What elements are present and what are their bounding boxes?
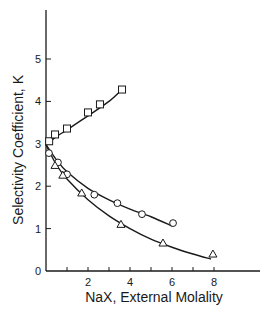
x-tick-label: 6 bbox=[169, 276, 175, 288]
square-marker bbox=[64, 125, 71, 132]
chart: 2468 012345 NaX, External Molality Selec… bbox=[0, 0, 272, 319]
circle-marker bbox=[170, 220, 177, 227]
triangle-marker bbox=[209, 250, 217, 257]
square-marker bbox=[119, 86, 126, 93]
triangle-marker bbox=[78, 189, 86, 196]
y-tick-label: 5 bbox=[35, 53, 41, 65]
y-axis-label: Selectivity Coefficient, K bbox=[10, 74, 26, 225]
x-tick-label: 2 bbox=[85, 276, 91, 288]
x-axis-label: NaX, External Molality bbox=[85, 289, 223, 305]
triangles-fit-curve bbox=[46, 145, 211, 259]
y-ticks: 012345 bbox=[35, 53, 51, 277]
circle-marker bbox=[91, 191, 98, 198]
square-marker bbox=[46, 138, 53, 145]
y-tick-label: 2 bbox=[35, 180, 41, 192]
circle-marker bbox=[139, 211, 146, 218]
y-tick-label: 1 bbox=[35, 223, 41, 235]
square-marker bbox=[96, 101, 103, 108]
x-ticks: 2468 bbox=[67, 267, 217, 288]
data-markers bbox=[46, 86, 217, 257]
circles-fit-curve bbox=[46, 145, 172, 226]
circle-marker bbox=[114, 200, 121, 207]
axes bbox=[46, 10, 260, 271]
y-tick-label: 0 bbox=[35, 265, 41, 277]
y-tick-label: 4 bbox=[35, 95, 41, 107]
y-tick-label: 3 bbox=[35, 138, 41, 150]
x-tick-label: 8 bbox=[211, 276, 217, 288]
x-tick-label: 4 bbox=[127, 276, 133, 288]
circle-marker bbox=[46, 150, 53, 157]
square-marker bbox=[52, 131, 59, 138]
square-marker bbox=[85, 109, 92, 116]
